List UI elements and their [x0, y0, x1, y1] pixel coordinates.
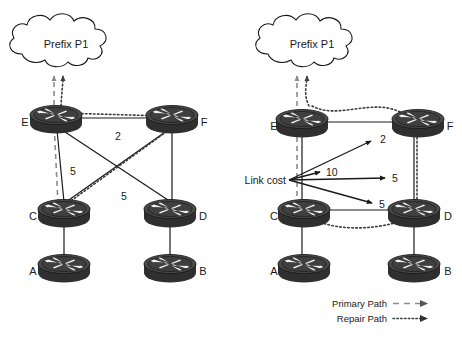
left-node-label-D: D [199, 210, 207, 222]
right-router-A[interactable] [278, 255, 330, 283]
right-node-label-A: A [270, 265, 278, 277]
right-router-C[interactable] [278, 200, 330, 228]
left-router-D[interactable] [144, 200, 196, 228]
left-router-E[interactable] [30, 106, 82, 134]
right-cost-label-F-D: 5 [392, 172, 398, 184]
left-repair-seg-C-F [68, 132, 166, 203]
right-cost-label-E-C: 10 [326, 166, 338, 178]
right-node-label-C: C [270, 210, 278, 222]
left-repair-seg-E-cloud [61, 76, 63, 110]
right-cost-label-E-F: 2 [380, 133, 386, 145]
right-node-label-B: B [444, 265, 451, 277]
right-router-F[interactable] [392, 110, 444, 138]
left-diagram: Prefix P1 E F C D [10, 14, 208, 283]
left-cost-label-E-F: 2 [115, 130, 121, 142]
right-node-label-F: F [447, 120, 454, 132]
right-linkcost-annotation: Link cost [245, 174, 287, 186]
left-cost-label-F-C: 5 [121, 190, 127, 202]
right-repair-seg-F-E [312, 106, 400, 112]
left-node-label-C: C [29, 210, 37, 222]
left-cost-label-E-C: 5 [70, 165, 76, 177]
legend: Primary Path Repair Path [332, 298, 427, 324]
left-node-label-F: F [201, 116, 208, 128]
right-router-D[interactable] [388, 200, 440, 228]
right-node-label-D: D [444, 210, 452, 222]
left-router-C[interactable] [38, 200, 90, 228]
left-cloud-label: Prefix P1 [44, 38, 89, 50]
right-diagram: Prefix P1 [245, 14, 454, 283]
left-node-label-B: B [199, 265, 206, 277]
right-repair-seg-E-cloud [306, 76, 309, 106]
legend-label-primary-path: Primary Path [332, 298, 387, 309]
right-node-label-E: E [270, 120, 277, 132]
left-node-label-E: E [21, 116, 28, 128]
left-router-F[interactable] [146, 106, 198, 134]
left-router-B[interactable] [144, 255, 196, 283]
right-cloud-label: Prefix P1 [290, 38, 335, 50]
network-diagram-svg: Prefix P1 E F C D [0, 0, 462, 339]
right-router-B[interactable] [388, 255, 440, 283]
figure-canvas: Prefix P1 E F C D [0, 0, 462, 339]
left-node-label-A: A [29, 265, 37, 277]
legend-label-repair-path: Repair Path [337, 313, 387, 324]
left-router-A[interactable] [38, 255, 90, 283]
right-router-E[interactable] [276, 110, 328, 138]
right-cost-label-C-D: 5 [379, 198, 385, 210]
right-linkcost-leader-5-FD [289, 178, 385, 180]
